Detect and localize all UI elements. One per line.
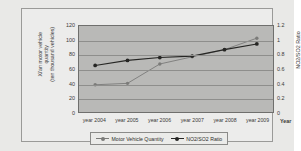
x-tick-4: year 2008 (213, 117, 236, 123)
chart-legend: Motor Vehicle Quantity NO2/SO2 Ratio (90, 132, 228, 145)
right-tick-0-6: 0.6 (277, 66, 285, 72)
data-point (158, 62, 161, 65)
gridline-1 (79, 41, 273, 42)
x-tick-2: year 2006 (148, 117, 171, 123)
gridline-3 (79, 70, 273, 71)
left-tick-60: 60 (69, 66, 75, 72)
left-tick-20: 20 (69, 95, 75, 101)
right-tick-1-2: 1.2 (277, 22, 285, 28)
x-tick-5: year 2009 (246, 117, 269, 123)
x-tick-3: year 2007 (181, 117, 204, 123)
left-axis-title: Xi'an motor vehicle quantity (ten thousa… (37, 9, 56, 99)
left-tick-80: 80 (69, 51, 75, 57)
gridline-5 (79, 99, 273, 100)
right-tick-0-8: 0.8 (277, 51, 285, 57)
right-axis-ticks: 1.2 1 0.8 0.6 0.4 0.2 0 (277, 25, 294, 113)
legend-entry-no2-so2-ratio: NO2/SO2 Ratio (171, 136, 223, 142)
data-point (126, 59, 130, 63)
right-tick-0-4: 0.4 (277, 81, 285, 87)
legend-entry-motor-vehicle-quantity: Motor Vehicle Quantity (96, 136, 164, 142)
gridline-4 (79, 85, 273, 86)
chart-figure: Xi'an motor vehicle quantity (ten thousa… (0, 0, 294, 151)
left-tick-100: 100 (66, 37, 75, 43)
data-point (93, 64, 97, 68)
legend-marker-icon-0 (96, 138, 109, 139)
right-tick-0: 0 (277, 110, 280, 116)
legend-marker-icon-1 (171, 138, 184, 139)
data-point (255, 42, 259, 46)
data-point (223, 48, 227, 52)
x-axis-title: Year (280, 118, 291, 124)
legend-label-1: NO2/SO2 Ratio (186, 136, 222, 142)
left-axis-title-line-3: (ten thousand vehicles) (49, 9, 55, 99)
x-axis-ticks: year 2004 year 2005 year 2006 year 2007 … (78, 117, 274, 127)
data-point (255, 36, 258, 39)
left-tick-120: 120 (66, 22, 75, 28)
left-axis-ticks: 120 100 80 60 40 20 0 (58, 25, 75, 113)
legend-label-0: Motor Vehicle Quantity (112, 136, 164, 142)
chart-frame: Xi'an motor vehicle quantity (ten thousa… (21, 8, 273, 142)
right-tick-0-2: 0.2 (277, 95, 285, 101)
left-tick-0: 0 (72, 110, 75, 116)
gridline-2 (79, 55, 273, 56)
right-tick-1: 1 (277, 37, 280, 43)
plot-area (78, 25, 274, 113)
left-tick-40: 40 (69, 81, 75, 87)
x-tick-0: year 2004 (83, 117, 106, 123)
x-tick-1: year 2005 (115, 117, 138, 123)
